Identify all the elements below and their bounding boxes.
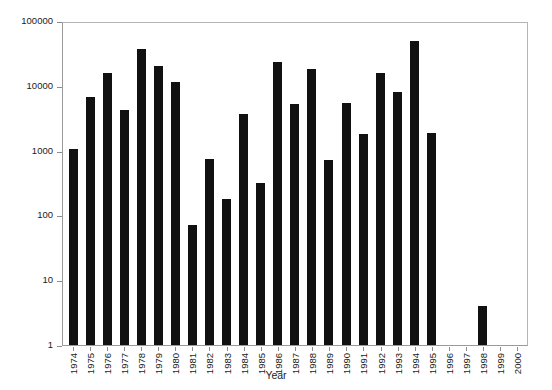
x-tick-mark: [90, 347, 91, 351]
bar: [273, 62, 282, 345]
plot-area: [62, 22, 528, 346]
x-tick: 1990: [338, 347, 355, 387]
x-tick: 1975: [81, 347, 98, 387]
bar: [478, 306, 487, 345]
x-tick: 1994: [406, 347, 423, 387]
x-tick: 1982: [201, 347, 218, 387]
x-tick-mark: [107, 347, 108, 351]
x-tick-mark: [415, 347, 416, 351]
bar-slot: [389, 23, 406, 345]
x-tick: 1981: [184, 347, 201, 387]
bar-slot: [338, 23, 355, 345]
y-tick-label: 100: [37, 209, 53, 220]
bar-slot: [320, 23, 337, 345]
x-tick-mark: [158, 347, 159, 351]
x-tick-mark: [363, 347, 364, 351]
x-tick: 1986: [269, 347, 286, 387]
x-tick: 1980: [167, 347, 184, 387]
x-tick: 1995: [423, 347, 440, 387]
bar-slot: [508, 23, 525, 345]
bar-slot: [440, 23, 457, 345]
x-tick-mark: [466, 347, 467, 351]
bar: [222, 199, 231, 345]
bar-slot: [82, 23, 99, 345]
y-tick-label: 10000: [27, 80, 53, 91]
x-tick-mark: [124, 347, 125, 351]
x-tick-mark: [346, 347, 347, 351]
bar-slot: [65, 23, 82, 345]
x-tick: 1993: [389, 347, 406, 387]
bar: [103, 73, 112, 345]
x-axis-title: Year: [0, 369, 552, 381]
bar-slot: [269, 23, 286, 345]
x-tick-mark: [73, 347, 74, 351]
x-tick: 1988: [304, 347, 321, 387]
y-tick-label: 1: [48, 339, 53, 350]
x-tick: 1998: [475, 347, 492, 387]
x-tick: 1984: [235, 347, 252, 387]
x-tick-mark: [312, 347, 313, 351]
bar-slot: [184, 23, 201, 345]
bar-series: [63, 23, 527, 345]
x-tick: 1979: [150, 347, 167, 387]
bar: [342, 103, 351, 345]
x-tick-mark: [381, 347, 382, 351]
x-tick: 1983: [218, 347, 235, 387]
x-tick: 1978: [132, 347, 149, 387]
bar: [154, 66, 163, 345]
y-tick: 100: [0, 216, 62, 217]
bar: [256, 183, 265, 345]
bar-slot: [286, 23, 303, 345]
bar-slot: [133, 23, 150, 345]
y-tick: 1: [0, 346, 62, 347]
bar-slot: [457, 23, 474, 345]
x-tick: 1991: [355, 347, 372, 387]
x-tick: 1977: [115, 347, 132, 387]
x-tick-mark: [483, 347, 484, 351]
x-tick-mark: [295, 347, 296, 351]
bar-slot: [372, 23, 389, 345]
y-tick: 1000: [0, 152, 62, 153]
bar-slot: [252, 23, 269, 345]
x-axis-ticks: 1974197519761977197819791980198119821983…: [62, 347, 528, 387]
bar: [290, 104, 299, 345]
x-tick-mark: [449, 347, 450, 351]
x-tick: 1997: [458, 347, 475, 387]
bar: [171, 82, 180, 345]
x-tick-mark: [432, 347, 433, 351]
bar: [205, 159, 214, 345]
bar: [410, 41, 419, 345]
bar: [307, 69, 316, 345]
bar: [137, 49, 146, 345]
x-tick-mark: [517, 347, 518, 351]
x-tick: 1989: [321, 347, 338, 387]
x-tick-mark: [141, 347, 142, 351]
bar: [359, 134, 368, 345]
bar-slot: [474, 23, 491, 345]
bar: [69, 149, 78, 345]
bar-slot: [406, 23, 423, 345]
bar-slot: [116, 23, 133, 345]
bar: [376, 73, 385, 345]
x-tick: 1992: [372, 347, 389, 387]
x-tick-mark: [278, 347, 279, 351]
bar: [239, 114, 248, 345]
bar: [324, 160, 333, 345]
y-tick-label: 10: [42, 274, 53, 285]
bar-slot: [491, 23, 508, 345]
chart-figure: Log total number collected 1000001000010…: [0, 0, 552, 390]
bar-slot: [423, 23, 440, 345]
y-tick: 100000: [0, 22, 62, 23]
x-tick-mark: [227, 347, 228, 351]
x-tick-mark: [209, 347, 210, 351]
x-tick-mark: [244, 347, 245, 351]
bar-slot: [235, 23, 252, 345]
x-tick-mark: [261, 347, 262, 351]
x-tick: 1996: [440, 347, 457, 387]
y-tick: 10000: [0, 87, 62, 88]
x-tick: 1985: [252, 347, 269, 387]
y-tick-label: 100000: [21, 15, 53, 26]
x-tick-mark: [398, 347, 399, 351]
bar-slot: [167, 23, 184, 345]
bar: [120, 110, 129, 345]
